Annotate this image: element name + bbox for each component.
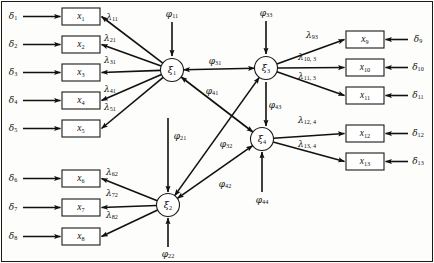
error-label-d12: δ12: [412, 128, 424, 139]
variance-label-p22: φ22: [162, 249, 175, 260]
observed-variable-x10: x10: [346, 59, 384, 76]
error-label-d11: δ11: [412, 90, 423, 101]
loading-label-l134: λ13, 4: [297, 139, 316, 150]
latent-variable-xi2: ξ2: [157, 194, 180, 217]
observed-variable-x8: x8: [62, 228, 100, 245]
covariance-label-p42: φ42: [219, 179, 232, 190]
error-label-d4: δ4: [9, 95, 18, 106]
observed-variable-x5: x5: [62, 120, 100, 137]
loading-label-l51: λ51: [103, 102, 116, 113]
variance-label-p44: φ44: [256, 195, 269, 206]
observed-variable-x12: x12: [346, 125, 384, 142]
observed-variable-x1: x1: [62, 8, 100, 25]
error-label-d5: δ5: [9, 123, 18, 134]
observed-variable-x2: x2: [62, 36, 100, 53]
loading-label-l11: λ11: [105, 12, 118, 23]
error-label-d2: δ2: [9, 39, 18, 50]
covariance-label-p41: φ41: [206, 86, 219, 97]
loading-label-l21: λ21: [103, 33, 116, 44]
observed-variable-x4: x4: [62, 92, 100, 109]
observed-variable-x6: x6: [62, 170, 100, 187]
loading-arrow-l31: [102, 70, 161, 72]
covariance-arrow-p41: [181, 77, 253, 132]
error-label-d1: δ1: [9, 11, 18, 22]
loading-label-l62: λ62: [105, 167, 118, 178]
error-label-d6: δ6: [9, 173, 18, 184]
covariance-arrow-p42: [177, 146, 252, 199]
latent-variable-xi4: ξ4: [251, 128, 274, 151]
variance-label-p11: φ11: [166, 9, 178, 20]
error-label-d3: δ3: [9, 67, 18, 78]
observed-variable-x7: x7: [62, 199, 100, 216]
error-label-d7: δ7: [9, 202, 18, 213]
loading-label-l93: λ93: [305, 30, 318, 41]
loading-label-l72: λ72: [105, 188, 118, 199]
observed-variable-x3: x3: [62, 64, 100, 81]
loading-label-l124: λ12, 4: [297, 115, 316, 126]
loading-label-l82: λ82: [105, 210, 118, 221]
covariance-arrow-p31: [183, 68, 254, 70]
error-label-d9: δ9: [414, 34, 423, 45]
covariance-arrow-group: [175, 68, 260, 198]
loading-label-l113: λ11, 3: [297, 71, 316, 82]
error-label-d8: δ8: [9, 231, 18, 242]
latent-variable-xi3: ξ3: [255, 57, 278, 80]
latent-variable-xi1: ξ1: [161, 59, 184, 82]
variance-label-p33: φ33: [260, 8, 273, 19]
loading-arrow-l72: [102, 205, 157, 207]
covariance-label-p31: φ31: [209, 56, 222, 67]
loading-arrow-l124: [273, 134, 344, 139]
diagram-canvas: x1x2x3x4x5x6x7x8x9x10x11x12x13 ξ1ξ2ξ3ξ4 …: [0, 0, 434, 263]
loading-arrow-group: [102, 17, 345, 237]
sem-path-diagram: x1x2x3x4x5x6x7x8x9x10x11x12x13 ξ1ξ2ξ3ξ4 …: [0, 0, 434, 263]
loading-arrow-l51: [102, 77, 164, 128]
observed-variable-x9: x9: [346, 31, 384, 48]
error-label-d10: δ10: [412, 62, 424, 73]
observed-variable-x11: x11: [346, 87, 384, 104]
variance-label-p43: φ43: [269, 100, 282, 111]
error-label-d13: δ13: [412, 156, 424, 167]
observed-variable-x13: x13: [346, 153, 384, 170]
covariance-label-p32: φ32: [220, 139, 233, 150]
loading-label-l41: λ41: [103, 84, 116, 95]
loading-label-l31: λ31: [103, 55, 116, 66]
variance-label-p21: φ21: [174, 131, 187, 142]
